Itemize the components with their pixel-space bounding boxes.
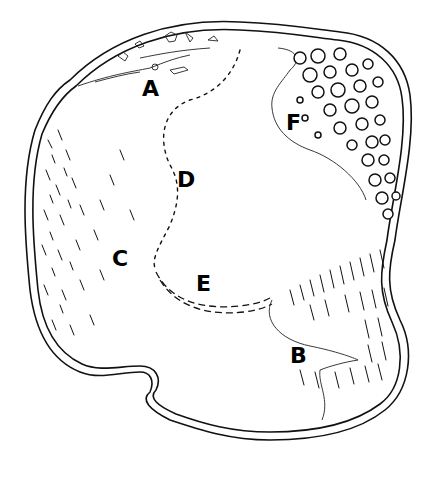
region-f-cells	[294, 48, 400, 219]
label-a: A	[142, 76, 159, 101]
region-c-hatching	[42, 130, 134, 335]
labeled-cross-section-drawing: A B C D E F	[0, 0, 440, 491]
boundary-d	[154, 50, 240, 270]
band-e-inner	[160, 280, 272, 313]
band-e-outer	[156, 272, 270, 307]
label-c: C	[112, 246, 128, 271]
label-b: B	[290, 343, 307, 368]
label-f: F	[286, 110, 301, 135]
inner-wall	[33, 30, 403, 432]
label-e: E	[196, 271, 211, 296]
label-d: D	[177, 167, 195, 192]
